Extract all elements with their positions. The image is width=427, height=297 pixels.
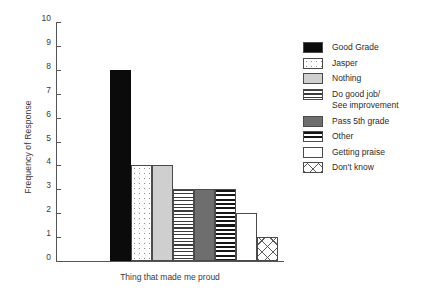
legend-item: Don't know xyxy=(303,162,374,173)
y-axis-tick: 2 xyxy=(57,213,61,214)
y-axis-tick-label: 7 xyxy=(46,90,51,91)
legend-label: Nothing xyxy=(332,73,361,84)
bar xyxy=(152,165,173,261)
legend-item: Good Grade xyxy=(303,42,379,53)
y-axis-tick-label: 5 xyxy=(46,138,51,139)
y-axis-tick: 1 xyxy=(57,237,61,238)
legend-label: Pass 5th grade xyxy=(332,116,389,127)
y-axis-tick: 5 xyxy=(57,142,61,143)
legend-item: Do good job/ See improvement xyxy=(303,89,399,111)
legend-label: Don't know xyxy=(332,162,374,173)
legend-label: Other xyxy=(332,131,353,142)
legend-item: Jasper xyxy=(303,58,358,69)
y-axis-tick: 7 xyxy=(57,94,61,95)
y-axis-tick-label: 6 xyxy=(46,114,51,115)
legend-item: Nothing xyxy=(303,73,361,84)
y-axis-tick-label: 2 xyxy=(46,209,51,210)
y-axis-tick: 6 xyxy=(57,118,61,119)
y-axis-tick-label: 3 xyxy=(46,185,51,186)
y-axis-tick: 0 xyxy=(57,261,61,262)
y-axis-tick-label: 10 xyxy=(42,18,51,19)
y-axis-tick: 9 xyxy=(57,46,61,47)
legend-label: Jasper xyxy=(332,58,358,69)
y-axis-tick: 8 xyxy=(57,70,61,71)
bar xyxy=(110,70,131,261)
legend-item: Other xyxy=(303,131,353,142)
y-axis-tick: 4 xyxy=(57,165,61,166)
legend-item: Pass 5th grade xyxy=(303,116,389,127)
y-axis-tick-label: 8 xyxy=(46,66,51,67)
legend-label: Good Grade xyxy=(332,42,379,53)
legend-swatch xyxy=(303,147,323,158)
y-axis-tick: 3 xyxy=(57,189,61,190)
plot-area: 012345678910 xyxy=(56,22,284,262)
legend-label: Getting praise xyxy=(332,147,385,158)
y-axis-tick-label: 4 xyxy=(46,161,51,162)
bar xyxy=(173,189,194,261)
legend-label: Do good job/ See improvement xyxy=(332,89,399,111)
legend-item: Getting praise xyxy=(303,147,385,158)
legend-swatch xyxy=(303,131,323,142)
legend-swatch xyxy=(303,89,323,100)
x-axis-line xyxy=(56,261,284,262)
y-axis-tick: 10 xyxy=(57,22,61,23)
y-axis-label: Frequency of Response xyxy=(23,67,33,227)
bar xyxy=(257,237,278,261)
bar xyxy=(236,213,257,261)
y-axis-tick-label: 0 xyxy=(46,257,51,258)
legend-swatch xyxy=(303,58,323,69)
legend-swatch xyxy=(303,116,323,127)
x-axis-label: Thing that made me proud xyxy=(56,272,284,282)
y-axis-tick-label: 1 xyxy=(46,233,51,234)
y-axis-tick-label: 9 xyxy=(46,42,51,43)
bar xyxy=(215,189,236,261)
legend-swatch xyxy=(303,162,323,173)
bar xyxy=(131,165,152,261)
bar-chart-figure: Frequency of Response 012345678910 Thing… xyxy=(0,0,427,297)
bar xyxy=(194,189,215,261)
legend-swatch xyxy=(303,73,323,84)
legend-swatch xyxy=(303,42,323,53)
